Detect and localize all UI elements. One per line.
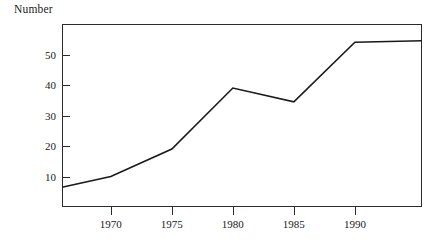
line-chart: Number 1020304050 19701975198019851990 xyxy=(0,0,432,248)
y-axis-tick-mark xyxy=(62,85,70,86)
y-axis-tick-label: 40 xyxy=(30,79,56,91)
y-axis-tick-label-group: 1020304050 xyxy=(22,0,56,248)
y-axis-tick-mark xyxy=(62,177,70,178)
x-axis-tick-label: 1990 xyxy=(344,218,366,230)
x-axis-tick-mark xyxy=(172,207,173,215)
x-axis-tick-mark xyxy=(111,207,112,215)
y-axis-tick-label: 30 xyxy=(30,110,56,122)
x-axis-tick-label: 1985 xyxy=(283,218,305,230)
x-axis-tick-mark xyxy=(294,207,295,215)
y-axis-tick-label: 50 xyxy=(30,49,56,61)
y-axis-tick-label: 10 xyxy=(30,171,56,183)
x-axis-tick-mark xyxy=(233,207,234,215)
x-axis-tick-label: 1975 xyxy=(161,218,183,230)
x-axis-tick-mark xyxy=(355,207,356,215)
plot-frame xyxy=(62,24,422,207)
y-axis-tick-mark xyxy=(62,116,70,117)
y-axis-tick-label: 20 xyxy=(30,140,56,152)
x-axis-tick-label: 1970 xyxy=(100,218,122,230)
y-axis-tick-mark xyxy=(62,146,70,147)
y-axis-tick-mark xyxy=(62,55,70,56)
x-axis-tick-label: 1980 xyxy=(222,218,244,230)
